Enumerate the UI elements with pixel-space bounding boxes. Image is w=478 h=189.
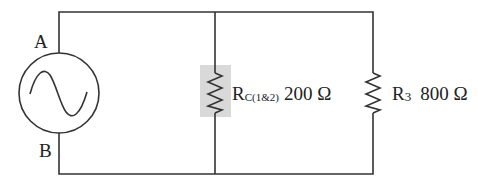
resistor-r3-icon — [366, 73, 380, 113]
resistor-r3-label: R3800 Ω — [392, 83, 468, 104]
ac-source-icon — [19, 53, 99, 133]
terminal-a-label: A — [34, 31, 48, 52]
circuit-diagram: A B RC(1&2)200 Ω R3800 Ω — [0, 0, 478, 189]
resistor-rc12-label: RC(1&2)200 Ω — [232, 83, 331, 104]
resistor-rc12-subscript: C(1&2) — [245, 91, 280, 104]
terminal-b-label: B — [39, 140, 52, 161]
resistor-r3-subscript: 3 — [405, 89, 412, 104]
